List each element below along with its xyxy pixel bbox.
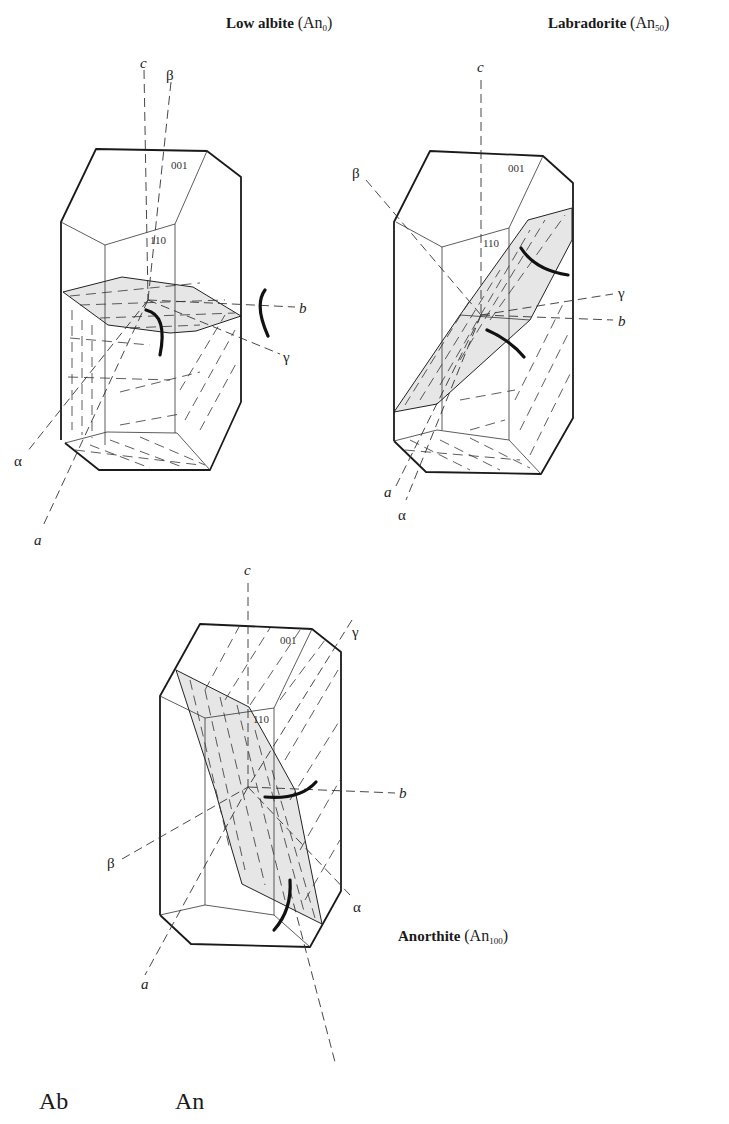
axis-label-b: b [618, 313, 626, 329]
axis-label-alpha: α [14, 453, 22, 469]
face-label-110: 110 [483, 237, 500, 249]
rotation-arc [260, 290, 268, 336]
axis-label-c: c [244, 562, 251, 578]
axis-label-beta: β [352, 165, 360, 181]
axis-beta [366, 180, 481, 315]
axis-label-alpha: α [398, 507, 406, 523]
label-anorthite-endmember: An [175, 1088, 204, 1115]
axis-beta [148, 82, 171, 300]
crystal-low-albite: c β b γ α a 001 110 [14, 55, 307, 548]
axis-label-gamma: γ [617, 285, 625, 301]
face-label-001: 001 [508, 162, 525, 174]
axis-label-a: a [384, 484, 392, 500]
axis-label-c: c [140, 55, 147, 71]
face-label-001: 001 [280, 634, 297, 646]
cleavage-hatching [68, 310, 238, 468]
axis-a [42, 300, 148, 528]
axis-label-gamma: γ [282, 349, 290, 365]
optic-plane [176, 670, 322, 924]
axis-label-gamma: γ [351, 624, 359, 640]
crystal-labradorite: c β γ b a α 001 110 [352, 59, 626, 523]
axis-label-alpha: α [353, 899, 361, 915]
face-label-001: 001 [171, 159, 188, 171]
face-label-110: 110 [150, 234, 167, 246]
crystal-diagrams: c β b γ α a 001 110 [0, 0, 729, 1124]
crystal-anorthite: c γ b β a α 001 110 [107, 562, 407, 1062]
face-label-110: 110 [253, 713, 270, 725]
axis-label-c: c [477, 59, 484, 75]
axis-label-b: b [399, 785, 407, 801]
axis-c [144, 70, 148, 300]
axis-label-beta: β [166, 67, 174, 83]
axis-label-a: a [141, 976, 149, 992]
axis-label-b: b [299, 300, 307, 316]
axis-label-beta: β [107, 855, 115, 871]
label-albite-endmember: Ab [39, 1088, 68, 1115]
axis-label-a: a [34, 532, 42, 548]
